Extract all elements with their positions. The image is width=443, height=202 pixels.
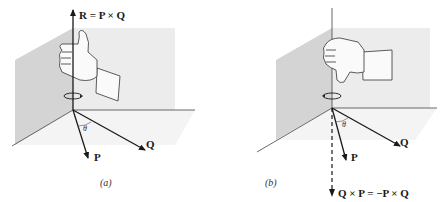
angle-label-b: θ — [342, 121, 346, 129]
panel-b — [257, 8, 437, 197]
panel-a — [12, 10, 195, 158]
vector-p-label-a: P — [94, 152, 101, 163]
caption-b: (b) — [265, 178, 277, 188]
vector-q-label-b: Q — [400, 137, 409, 148]
result-label-a: R = P × Q — [79, 10, 125, 21]
caption-a: (a) — [100, 178, 112, 188]
cross-product-diagram — [0, 0, 443, 202]
vector-p-label-b: P — [351, 152, 358, 163]
result-label-b: Q × P = −P × Q — [338, 188, 409, 199]
angle-label-a: θ — [83, 125, 87, 133]
vector-q-label-a: Q — [146, 139, 155, 150]
